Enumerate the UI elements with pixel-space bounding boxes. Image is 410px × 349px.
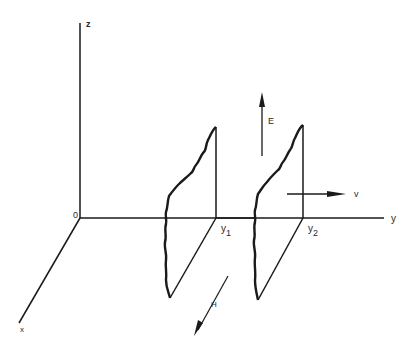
electric-field-label: E (268, 116, 274, 126)
electric-field-arrow (259, 92, 265, 156)
origin-label: 0 (73, 210, 78, 220)
x-axis (19, 218, 80, 323)
magnetic-field-label: H (211, 300, 217, 309)
wave-plane-1 (165, 127, 216, 298)
plane-2-position-label: y2 (308, 223, 318, 238)
velocity-arrow (287, 191, 346, 197)
velocity-label: v (354, 189, 359, 199)
plane-1-position-label: y1 (221, 223, 231, 238)
z-axis-label: z (86, 19, 91, 29)
wave-plane-2 (254, 125, 303, 300)
diagram-canvas: z 0 y x y1 y2 E v H (0, 0, 410, 349)
y-axis-label: y (391, 213, 396, 224)
x-axis-label: x (20, 325, 24, 334)
